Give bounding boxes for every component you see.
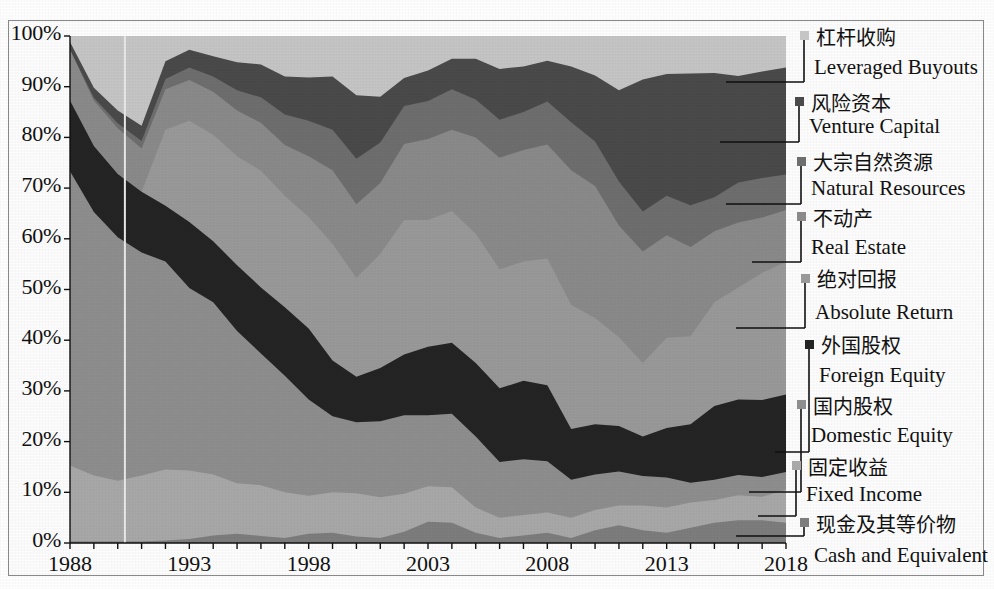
legend-label-cn: 现金及其等价物 bbox=[816, 509, 956, 538]
legend-label-en: Leveraged Buyouts bbox=[814, 55, 978, 80]
legend-label-cn: 绝对回报 bbox=[817, 264, 897, 293]
x-axis-tick-label: 1988 bbox=[25, 551, 115, 577]
y-axis-tick-label: 90% bbox=[22, 71, 61, 97]
legend-label-en: Natural Resources bbox=[811, 176, 966, 201]
x-axis-tick-label: 2003 bbox=[383, 551, 473, 577]
legend-label-cn: 杠杆收购 bbox=[816, 22, 896, 51]
y-axis-tick-label: 20% bbox=[22, 426, 61, 452]
y-axis-tick-label: 10% bbox=[22, 476, 61, 502]
x-axis-tick-label: 2013 bbox=[622, 551, 712, 577]
legend-label-cn: 不动产 bbox=[813, 203, 873, 232]
legend-label-en: Real Estate bbox=[811, 235, 906, 260]
legend-swatch bbox=[801, 274, 810, 283]
y-axis-tick-label: 40% bbox=[22, 324, 61, 350]
y-axis-tick-label: 100% bbox=[11, 20, 61, 46]
y-axis-tick-label: 0% bbox=[32, 527, 61, 553]
y-axis-tick-label: 80% bbox=[22, 121, 61, 147]
legend-swatch bbox=[795, 97, 804, 106]
legend-swatch bbox=[797, 157, 806, 166]
legend-swatch bbox=[800, 518, 809, 527]
legend-label-cn: 风险资本 bbox=[811, 88, 891, 117]
legend-label-en: Domestic Equity bbox=[811, 423, 953, 448]
y-axis-tick-label: 60% bbox=[22, 223, 61, 249]
legend-label-en: Absolute Return bbox=[815, 300, 953, 325]
legend-label-cn: 外国股权 bbox=[821, 330, 901, 359]
legend-swatch bbox=[800, 31, 809, 40]
legend-swatch bbox=[797, 212, 806, 221]
x-axis-tick-label: 1998 bbox=[264, 551, 354, 577]
x-axis-tick-label: 1993 bbox=[144, 551, 234, 577]
legend-label-en: Fixed Income bbox=[806, 482, 922, 507]
y-axis-tick-label: 70% bbox=[22, 172, 61, 198]
legend-label-en: Foreign Equity bbox=[819, 363, 946, 388]
legend-label-en: Venture Capital bbox=[809, 114, 940, 139]
legend-label-en: Cash and Equivalent bbox=[814, 543, 988, 568]
legend-label-cn: 固定收益 bbox=[808, 452, 888, 481]
legend-swatch bbox=[792, 461, 801, 470]
legend-swatch bbox=[805, 340, 814, 349]
legend-label-cn: 大宗自然资源 bbox=[813, 147, 933, 176]
x-axis-tick-label: 2008 bbox=[502, 551, 592, 577]
legend-swatch bbox=[797, 400, 806, 409]
y-axis-tick-label: 50% bbox=[22, 274, 61, 300]
y-axis-tick-label: 30% bbox=[22, 375, 61, 401]
legend-label-cn: 国内股权 bbox=[813, 391, 893, 420]
